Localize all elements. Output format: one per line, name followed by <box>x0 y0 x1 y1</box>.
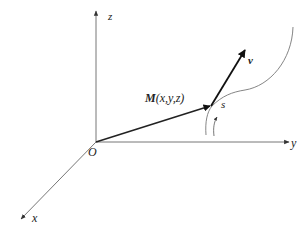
point-m-name: M <box>144 91 156 105</box>
y-axis-label: y <box>290 136 297 150</box>
velocity-label: v <box>248 54 253 66</box>
position-vector <box>96 106 210 142</box>
x-axis-label: x <box>31 211 38 225</box>
x-axis <box>21 142 96 219</box>
point-m-label: M(x,y,z) <box>144 91 184 105</box>
origin-label: O <box>88 145 97 159</box>
z-axis-label: z <box>107 10 113 22</box>
trajectory-curve-lower <box>206 106 212 135</box>
arc-length-arrow <box>214 117 217 136</box>
vector-diagram: z y x O v s M(x,y,z) <box>0 0 308 236</box>
trajectory-curve <box>212 27 293 106</box>
point-m-coords: (x,y,z) <box>156 91 185 105</box>
velocity-vector <box>211 50 245 106</box>
arc-length-label: s <box>221 98 225 110</box>
